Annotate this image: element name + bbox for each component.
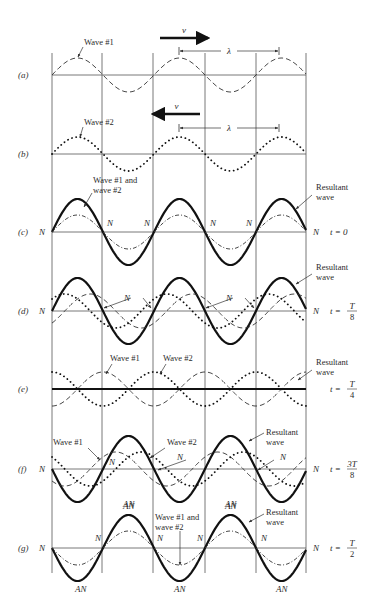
time-numerator: T <box>349 538 355 548</box>
node-label-left: N <box>38 464 46 474</box>
standing-wave-diagram: (a)Wave #1(b)Wave #2(c)NNt = 0Wave #1 an… <box>0 0 369 616</box>
node-label-left: N <box>38 543 46 553</box>
annotation-label: Resultant <box>266 427 299 437</box>
wave-panels: (a)Wave #1(b)Wave #2(c)NNt = 0Wave #1 an… <box>18 37 358 594</box>
node-label-left: N <box>38 227 46 237</box>
annotation-label: Wave #2 <box>167 437 197 447</box>
velocity-label: v <box>182 25 186 35</box>
node-label: N <box>143 218 151 228</box>
annotation-label: wave #2 <box>155 522 184 532</box>
annotation-label: Resultant <box>316 262 349 272</box>
velocity-label: v <box>175 101 179 111</box>
node-label: N <box>225 293 233 303</box>
antinode-label: AN <box>74 584 87 594</box>
standing-wave-figure: (a)Wave #1(b)Wave #2(c)NNt = 0Wave #1 an… <box>0 0 369 616</box>
annotation-label: Resultant <box>316 357 349 367</box>
node-label-right: N <box>312 464 320 474</box>
antinode-label: AN <box>122 501 135 511</box>
panel-label: (g) <box>18 543 29 553</box>
annotation-label: wave #2 <box>93 185 122 195</box>
node-label: N <box>94 533 102 543</box>
node-label: N <box>108 457 116 467</box>
time-label: t = <box>330 464 341 474</box>
panel-b: (b)Wave #2 <box>18 117 306 171</box>
leader-arrow-icon <box>88 448 100 460</box>
time-label: t = <box>330 306 341 316</box>
annotation-label: Wave #2 <box>163 353 193 363</box>
panel-label: (d) <box>18 306 29 316</box>
time-denominator: 4 <box>350 390 355 400</box>
time-label: t = 0 <box>330 227 348 237</box>
wavelength-label: λ <box>226 123 231 133</box>
node-label-left: N <box>38 306 46 316</box>
node-label: N <box>176 452 184 462</box>
panel-c: (c)NNt = 0Wave #1 andwave #2Resultantwav… <box>18 175 349 265</box>
antinode-label: AN <box>275 584 288 594</box>
node-label: N <box>279 452 287 462</box>
annotation-label: wave <box>316 192 334 202</box>
node-label-right: N <box>312 543 320 553</box>
wavelength-label: λ <box>226 46 231 56</box>
annotation-label: Wave #1 and <box>155 512 200 522</box>
panel-f: (f)NNt =3T8Wave #1Wave #2ResultantwaveNN… <box>18 427 358 509</box>
node-label-right: N <box>312 227 320 237</box>
leader-arrow-icon <box>245 298 254 308</box>
annotation-label: Wave #1 and <box>93 175 138 185</box>
panel-label: (e) <box>18 384 28 394</box>
annotation-label: Resultant <box>266 507 299 517</box>
panel-a: (a)Wave #1 <box>18 37 306 92</box>
time-denominator: 8 <box>350 312 354 322</box>
velocity-and-wavelength-markers: vλvλ <box>153 25 279 133</box>
annotation-label: Wave #1 <box>53 437 83 447</box>
node-label: N <box>260 533 268 543</box>
node-label: N <box>123 293 131 303</box>
time-denominator: 8 <box>350 470 354 480</box>
antinode-label: AN <box>173 584 186 594</box>
node-label: N <box>156 533 164 543</box>
annotation-label: wave <box>266 517 284 527</box>
time-numerator: T <box>349 301 355 311</box>
panel-label: (c) <box>18 227 28 237</box>
time-numerator: T <box>349 379 355 389</box>
leader-arrow-icon <box>78 47 83 57</box>
annotation-label: wave <box>316 367 334 377</box>
annotation-label: Resultant <box>316 182 349 192</box>
panel-label: (b) <box>18 149 29 159</box>
time-label: t = <box>330 384 341 394</box>
leader-arrow-icon <box>296 195 312 209</box>
leader-arrow-icon <box>249 514 264 522</box>
leader-arrow-icon <box>150 448 165 458</box>
annotation-label: Wave #1 <box>110 353 140 363</box>
leader-arrow-icon <box>298 370 312 380</box>
node-label: N <box>196 533 204 543</box>
leader-arrow-icon <box>80 127 83 137</box>
leader-arrow-icon <box>249 433 264 441</box>
time-numerator: 3T <box>346 459 358 469</box>
node-label-right: N <box>312 306 320 316</box>
leader-arrow-icon <box>104 298 131 308</box>
node-label: N <box>209 218 217 228</box>
time-label: t = <box>330 543 341 553</box>
annotation-label: wave <box>316 272 334 282</box>
annotation-label: Wave #2 <box>84 117 114 127</box>
leader-arrow-icon <box>106 364 112 374</box>
panel-label: (f) <box>18 464 27 474</box>
node-label: N <box>106 218 114 228</box>
annotation-label: wave <box>266 437 284 447</box>
leader-arrow-icon <box>160 364 166 374</box>
annotation-label: Wave #1 <box>84 37 114 47</box>
node-label: N <box>245 218 253 228</box>
panel-label: (a) <box>18 70 29 80</box>
antinode-label: AN <box>224 501 237 511</box>
time-denominator: 2 <box>350 549 354 559</box>
leader-arrow-icon <box>296 274 312 284</box>
